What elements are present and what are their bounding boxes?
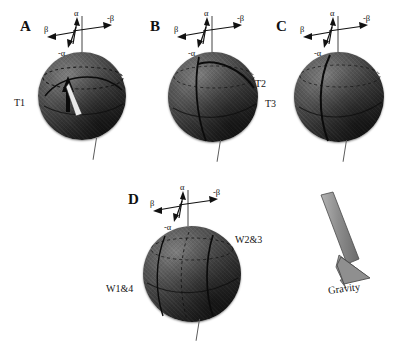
axis-label-neg-alpha: -α <box>164 222 172 232</box>
axis-label-beta: β <box>150 198 154 208</box>
sphere-label-t3: T3 <box>265 98 276 109</box>
axis-label-beta: β <box>300 24 304 34</box>
sphere-a <box>38 52 128 142</box>
panel-letter-d: D <box>128 191 139 208</box>
pointer-arrow-a <box>38 52 128 142</box>
gravity-indicator: Gravity <box>300 185 407 339</box>
axis-label-neg-beta: -β <box>213 187 220 197</box>
axis-cross-a: α -β β -α <box>44 8 116 60</box>
panel-b: B α -β β -α <box>130 0 270 170</box>
sphere-b <box>168 52 260 144</box>
axis-label-neg-beta: -β <box>107 13 114 23</box>
axis-label-beta: β <box>174 24 178 34</box>
axis-label-alpha: α <box>180 182 185 192</box>
panel-letter-b: B <box>150 18 160 35</box>
sphere-label-w14: W1&4 <box>106 283 133 294</box>
gravity-arrow-icon <box>300 185 407 295</box>
axis-label-neg-alpha: -α <box>58 48 66 58</box>
panel-d: D α -β β <box>110 178 290 339</box>
sphere-label-w23: W2&3 <box>235 234 262 245</box>
sphere-c-meridians <box>294 52 386 144</box>
axis-label-alpha: α <box>204 8 209 18</box>
panel-letter-c: C <box>276 18 287 35</box>
sphere-d <box>143 226 243 324</box>
axis-label-alpha: α <box>330 8 335 18</box>
axis-label-neg-alpha: -α <box>314 48 322 58</box>
axis-cross-b: α -β β -α <box>174 8 246 60</box>
sphere-label-t1: T1 <box>14 97 25 108</box>
axis-label-neg-beta: -β <box>237 13 244 23</box>
sphere-c <box>294 52 386 144</box>
panel-letter-a: A <box>20 18 31 35</box>
panel-a: A <box>0 0 140 170</box>
panel-c: C α -β β -α T3 <box>262 0 407 170</box>
axis-label-neg-alpha: -α <box>188 48 196 58</box>
axis-cross-d: α -β β -α <box>150 182 222 234</box>
sphere-d-meridians <box>143 226 243 324</box>
axis-label-beta: β <box>44 24 48 34</box>
sphere-b-meridians <box>168 52 260 144</box>
axis-label-alpha: α <box>74 8 79 18</box>
axis-label-neg-beta: -β <box>363 13 370 23</box>
axis-cross-c: α -β β -α <box>300 8 372 60</box>
